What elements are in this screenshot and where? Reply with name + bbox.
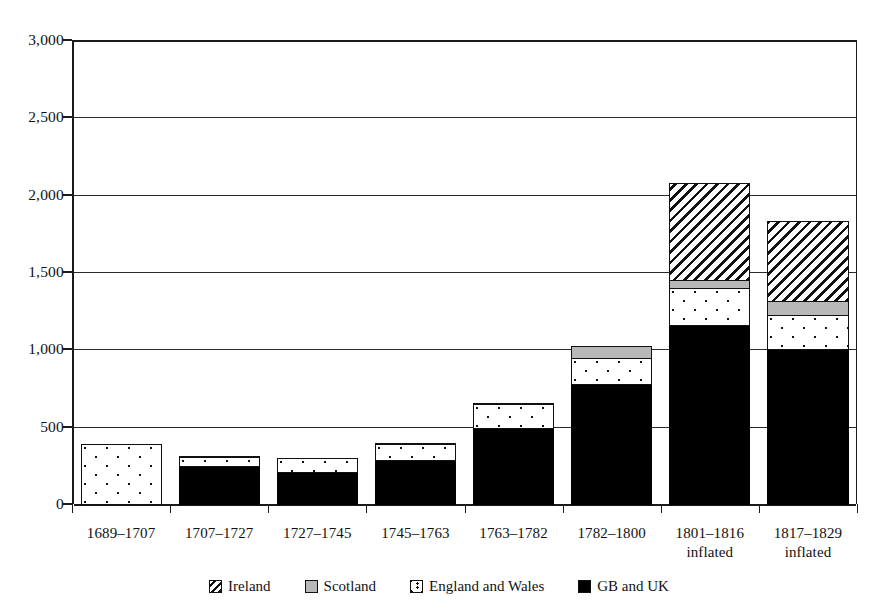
y-tick-mark-2500	[63, 116, 72, 118]
x-tick-mark	[366, 504, 367, 513]
bar-segment-ew	[277, 458, 358, 473]
bar-segment-sc	[179, 456, 260, 458]
bar-segment-gb	[179, 466, 260, 505]
bar-segment-sc	[669, 280, 750, 289]
x-axis-label-1: 1707–1727	[170, 524, 268, 543]
bar-segment-sc	[375, 443, 456, 445]
bar-segment-sc	[473, 403, 554, 405]
legend-item-ireland: Ireland	[209, 578, 270, 595]
bar-segment-ew	[81, 444, 162, 505]
bar-segment-ew	[473, 404, 554, 429]
y-tick-mark-0	[63, 503, 72, 505]
x-axis-label-2: 1727–1745	[268, 524, 366, 543]
x-tick-mark	[759, 504, 760, 513]
x-tick-mark	[170, 504, 171, 513]
bar-segment-sc	[767, 301, 848, 316]
bar-segment-ew	[179, 457, 260, 467]
y-tick-mark-3000	[63, 39, 72, 41]
bar-segment-ew	[767, 315, 848, 350]
bar-segment-gb	[767, 349, 848, 505]
bar-1782–1800	[571, 343, 652, 504]
scotland-grey-swatch	[305, 580, 318, 593]
legend-item-england-and-wales: England and Wales	[410, 578, 544, 595]
y-tick-mark-1000	[63, 348, 72, 350]
bar-segment-sc	[571, 346, 652, 358]
bar-segment-gb	[375, 460, 456, 505]
gb-uk-black-swatch	[578, 580, 591, 593]
x-axis-label-5: 1782–1800	[563, 524, 661, 543]
x-axis-label-0: 1689–1707	[72, 524, 170, 543]
legend-label: England and Wales	[429, 578, 544, 595]
y-tick-mark-500	[63, 426, 72, 428]
bar-segment-gb	[473, 428, 554, 505]
chart-legend: IrelandScotlandEngland and WalesGB and U…	[0, 578, 878, 595]
x-tick-mark	[465, 504, 466, 513]
legend-label: Scotland	[324, 578, 377, 595]
bar-1707–1727	[179, 454, 260, 504]
x-axis-label-4: 1763–1782	[465, 524, 563, 543]
x-tick-mark	[661, 504, 662, 513]
bar-1727–1745	[277, 456, 358, 504]
bar-segment-gb	[669, 325, 750, 505]
bar-segment-ir	[767, 221, 848, 302]
legend-label: GB and UK	[597, 578, 669, 595]
x-tick-mark	[563, 504, 564, 513]
x-axis-label-6: 1801–1816 inflated	[661, 524, 759, 562]
bar-segment-ir	[669, 183, 750, 280]
bars-layer	[0, 0, 878, 613]
bar-1817–1829-inflated	[767, 217, 848, 504]
legend-label: Ireland	[228, 578, 270, 595]
bar-1763–1782	[473, 400, 554, 504]
y-tick-mark-2000	[63, 194, 72, 196]
bar-segment-gb	[277, 472, 358, 505]
legend-item-scotland: Scotland	[305, 578, 377, 595]
bar-segment-ew	[375, 444, 456, 461]
bar-segment-ew	[571, 358, 652, 386]
bar-segment-gb	[571, 384, 652, 505]
x-tick-mark	[268, 504, 269, 513]
bar-1689–1707	[81, 443, 162, 504]
ireland-hatch-swatch	[209, 580, 222, 593]
england-wales-dotted-swatch	[410, 580, 423, 593]
x-tick-mark	[72, 504, 73, 513]
bar-1745–1763	[375, 440, 456, 504]
y-tick-mark-1500	[63, 271, 72, 273]
x-axis-labels: 1689–17071707–17271727–17451745–17631763…	[0, 524, 878, 584]
stacked-bar-chart: 05001,0001,5002,0002,5003,000 1689–17071…	[0, 0, 878, 613]
x-tick-mark	[857, 504, 858, 513]
bar-segment-ew	[669, 288, 750, 326]
x-axis-label-7: 1817–1829 inflated	[759, 524, 857, 562]
x-axis-label-3: 1745–1763	[366, 524, 464, 543]
bar-1801–1816-inflated	[669, 179, 750, 504]
legend-item-gb-and-uk: GB and UK	[578, 578, 669, 595]
